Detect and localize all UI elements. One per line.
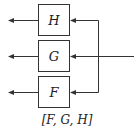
- output-arrow-g: [8, 54, 38, 59]
- output-arrow-h: [8, 18, 38, 23]
- output-arrow-f: [8, 90, 38, 95]
- arrowhead-left-icon: [8, 90, 14, 95]
- diagram-caption: [F, G, H]: [42, 113, 93, 127]
- block-f: F: [39, 77, 70, 108]
- arrowhead-left-icon: [70, 90, 76, 95]
- arrowhead-left-icon: [70, 18, 76, 23]
- block-h-label: H: [47, 13, 60, 28]
- block-f-label: F: [48, 85, 59, 100]
- block-g: G: [39, 41, 70, 72]
- arrowhead-left-icon: [70, 54, 76, 59]
- block-h: H: [39, 5, 70, 36]
- arrowhead-left-icon: [8, 54, 14, 59]
- product-diagram: H G F [F, G, H]: [0, 0, 134, 133]
- input-bus: [70, 18, 134, 95]
- arrowhead-left-icon: [8, 18, 14, 23]
- block-g-label: G: [49, 49, 59, 64]
